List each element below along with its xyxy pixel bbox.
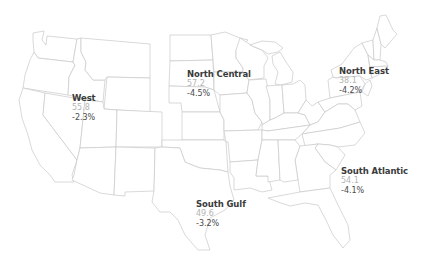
us-region-map <box>0 0 422 273</box>
region-label-south-gulf: South Gulf 49.6 -3.2% <box>196 199 246 229</box>
region-label-north-east: North East 38.1 -4.2% <box>339 66 389 96</box>
region-value: 49.6 <box>196 209 246 219</box>
region-label-west: West 55.8 -2.3% <box>72 93 96 123</box>
region-value: 57.2 <box>187 79 251 89</box>
region-change: -4.2% <box>339 86 389 96</box>
region-name: South Gulf <box>196 199 246 209</box>
region-label-north-central: North Central 57.2 -4.5% <box>187 69 251 99</box>
region-name: South Atlantic <box>341 166 408 176</box>
region-change: -4.1% <box>341 186 408 196</box>
region-label-south-atlantic: South Atlantic 54.1 -4.1% <box>341 166 408 196</box>
region-value: 55.8 <box>72 103 96 113</box>
region-change: -2.3% <box>72 113 96 123</box>
region-south-gulf[interactable] <box>152 125 310 250</box>
region-name: West <box>72 93 96 103</box>
region-value: 38.1 <box>339 76 389 86</box>
region-name: North Central <box>187 69 251 79</box>
region-name: North East <box>339 66 389 76</box>
region-value: 54.1 <box>341 176 408 186</box>
region-change: -4.5% <box>187 89 251 99</box>
region-change: -3.2% <box>196 219 246 229</box>
